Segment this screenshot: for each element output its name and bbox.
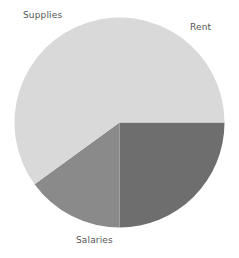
pie-slice-group [15, 18, 225, 228]
pie-label-rent: Rent [190, 22, 211, 33]
pie-label-salaries: Salaries [76, 235, 113, 246]
pie-chart-canvas [0, 0, 239, 258]
pie-chart-figure: Supplies Rent Salaries [0, 0, 239, 258]
pie-slice-rent [120, 123, 225, 228]
pie-label-supplies: Supplies [23, 10, 62, 21]
